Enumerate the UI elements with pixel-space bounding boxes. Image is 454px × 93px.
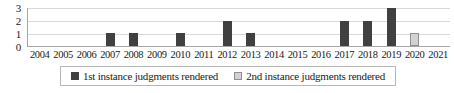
- legend-swatch-icon-series2: [234, 72, 242, 80]
- x-tick-2013: 2013: [239, 48, 262, 61]
- y-tick-0: 0: [16, 43, 21, 52]
- bar-group: [28, 8, 450, 46]
- bar-2020-series2[interactable]: [410, 33, 419, 46]
- x-tick-2015: 2015: [286, 48, 309, 61]
- y-tick-2: 2: [16, 16, 21, 25]
- legend-label-series1: 1st instance judgments rendered: [83, 70, 218, 82]
- x-axis-tick-labels: 2004200520062007200820092010201120122013…: [28, 48, 450, 61]
- bar-slot-2018: [356, 8, 379, 46]
- x-tick-2009: 2009: [145, 48, 168, 61]
- bar-chart: 3 2 1 0 20042005200620072008200920102011…: [0, 0, 454, 93]
- legend-item-1st-instance[interactable]: 1st instance judgments rendered: [71, 70, 218, 82]
- x-tick-2018: 2018: [356, 48, 379, 61]
- bar-slot-2015: [286, 8, 309, 46]
- y-tick-1: 1: [16, 29, 21, 38]
- bar-2008-series1[interactable]: [129, 33, 138, 46]
- bar-slot-2016: [309, 8, 332, 46]
- bar-slot-2020: [403, 8, 426, 46]
- bar-2007-series1[interactable]: [106, 33, 115, 46]
- x-tick-2004: 2004: [28, 48, 51, 61]
- bar-2019-series1[interactable]: [387, 8, 396, 46]
- bar-slot-2021: [426, 8, 449, 46]
- x-axis-line: [27, 46, 450, 47]
- bar-slot-2013: [239, 8, 262, 46]
- x-tick-2010: 2010: [169, 48, 192, 61]
- y-axis-tick-labels: 3 2 1 0: [0, 8, 25, 47]
- bar-slot-2011: [192, 8, 215, 46]
- y-tick-3: 3: [16, 4, 21, 13]
- x-tick-2020: 2020: [403, 48, 426, 61]
- x-tick-2012: 2012: [216, 48, 239, 61]
- bar-slot-2019: [380, 8, 403, 46]
- bar-2017-series1[interactable]: [340, 21, 349, 46]
- x-tick-2016: 2016: [309, 48, 332, 61]
- legend-item-2nd-instance[interactable]: 2nd instance judgments rendered: [234, 70, 385, 82]
- bar-slot-2007: [98, 8, 121, 46]
- bar-slot-2017: [333, 8, 356, 46]
- x-tick-2014: 2014: [262, 48, 285, 61]
- x-tick-2019: 2019: [380, 48, 403, 61]
- bar-2010-series1[interactable]: [176, 33, 185, 46]
- x-tick-2005: 2005: [51, 48, 74, 61]
- plot-area: [27, 8, 450, 47]
- bar-2018-series1[interactable]: [363, 21, 372, 46]
- x-tick-2011: 2011: [192, 48, 215, 61]
- bar-2013-series1[interactable]: [246, 33, 255, 46]
- legend-swatch-icon-series1: [71, 72, 79, 80]
- bar-slot-2004: [28, 8, 51, 46]
- x-tick-2008: 2008: [122, 48, 145, 61]
- bar-slot-2006: [75, 8, 98, 46]
- x-tick-2021: 2021: [426, 48, 449, 61]
- bar-slot-2010: [169, 8, 192, 46]
- x-tick-2006: 2006: [75, 48, 98, 61]
- bar-slot-2009: [145, 8, 168, 46]
- bar-2012-series1[interactable]: [223, 21, 232, 46]
- legend-label-series2: 2nd instance judgments rendered: [246, 70, 385, 82]
- x-tick-2017: 2017: [333, 48, 356, 61]
- chart-legend: 1st instance judgments rendered 2nd inst…: [60, 66, 396, 86]
- bar-slot-2008: [122, 8, 145, 46]
- x-tick-2007: 2007: [98, 48, 121, 61]
- bar-slot-2005: [51, 8, 74, 46]
- bar-slot-2014: [262, 8, 285, 46]
- bar-slot-2012: [216, 8, 239, 46]
